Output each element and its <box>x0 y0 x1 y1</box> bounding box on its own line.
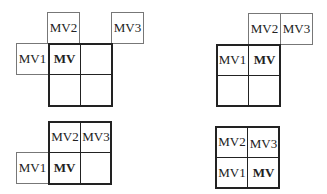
block-divider <box>217 75 280 76</box>
mv3-cell: MV3 <box>280 13 313 45</box>
mv1-cell: MV1 <box>218 46 247 74</box>
mv2-cell: MV2 <box>50 123 80 151</box>
mv-cell: MV <box>250 46 279 74</box>
mv-cell: MV <box>50 154 79 182</box>
mv3-cell: MV3 <box>111 12 144 44</box>
mv1-cell: MV1 <box>16 152 49 184</box>
mv3-cell: MV3 <box>81 123 111 151</box>
mv2-cell: MV2 <box>47 12 80 44</box>
mv-cell: MV <box>50 45 79 73</box>
mv1-cell: MV1 <box>217 159 247 187</box>
mv3-cell: MV3 <box>248 130 279 158</box>
mv-cell: MV <box>248 159 279 187</box>
mv2-cell: MV2 <box>248 13 281 45</box>
block-divider <box>80 44 81 106</box>
block-divider <box>49 74 112 75</box>
mv1-cell: MV1 <box>16 43 49 75</box>
block-divider <box>49 152 111 153</box>
mv2-cell: MV2 <box>217 128 247 156</box>
